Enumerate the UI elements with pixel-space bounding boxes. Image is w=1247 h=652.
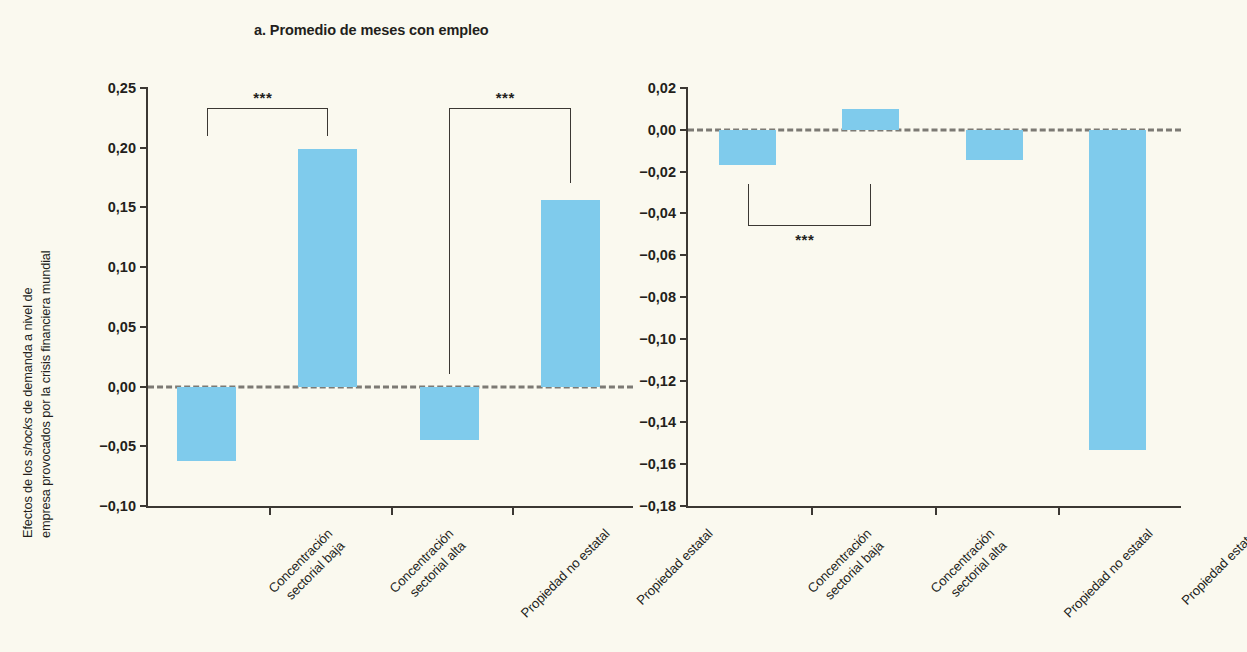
y-axis-tick-label: −0,05 (99, 438, 136, 454)
y-axis-tick-label: 0,15 (108, 199, 136, 215)
y-axis-tick (140, 266, 148, 268)
bar (842, 109, 899, 130)
x-axis-category-label-line: Propiedad no estatal (518, 526, 613, 621)
y-axis-tick-label: −0,12 (639, 373, 676, 389)
y-axis-tick (140, 87, 148, 89)
y-axis-tick-label: 0,00 (648, 122, 676, 138)
x-axis-category-label: Concentraciónsectorial alta (386, 526, 469, 609)
panel-a: a. Promedio de meses con empleo 0,250,20… (0, 0, 640, 652)
y-axis-tick-label: 0,25 (108, 80, 136, 96)
x-axis-tick (811, 506, 813, 515)
y-axis-tick-label: −0,18 (639, 498, 676, 514)
x-axis-category-label: Concentraciónsectorial baja (265, 526, 348, 609)
y-axis-tick (680, 505, 688, 507)
x-axis-tick (512, 506, 514, 515)
y-axis-tick-label: −0,16 (639, 456, 676, 472)
significance-stars: *** (496, 90, 515, 105)
x-axis-category-label: Propiedad no estatal (1061, 526, 1157, 622)
x-axis-category-label: Concentraciónsectorial baja (804, 526, 887, 609)
y-axis-tick (680, 338, 688, 340)
y-axis-tick-label: −0,10 (639, 331, 676, 347)
bar (1089, 130, 1146, 450)
y-axis-tick-label: −0,04 (639, 205, 676, 221)
x-axis-category-label-line: Propiedad estatal (1179, 526, 1247, 608)
bar (420, 387, 479, 441)
bar (177, 387, 236, 461)
bar (298, 149, 357, 387)
y-axis-tick (140, 147, 148, 149)
y-axis-tick-label: 0,02 (648, 80, 676, 96)
y-axis-tick (140, 326, 148, 328)
y-axis-tick (680, 296, 688, 298)
y-axis-tick-label: 0,10 (108, 259, 136, 275)
panel-a-plot-area: 0,250,200,150,100,050,00−0,05−0,10Concen… (146, 88, 633, 508)
y-axis-tick (140, 445, 148, 447)
significance-bracket (748, 184, 871, 226)
y-axis-tick-label: −0,10 (99, 498, 136, 514)
y-axis-tick (680, 129, 688, 131)
bar (719, 130, 776, 166)
x-axis-tick (391, 506, 393, 515)
y-axis-tick (680, 380, 688, 382)
y-axis-tick (140, 386, 148, 388)
x-axis-category-label: Concentraciónsectorial alta (927, 526, 1010, 609)
y-axis-tick (680, 212, 688, 214)
y-axis-tick (680, 87, 688, 89)
y-axis-tick (680, 171, 688, 173)
significance-bracket (449, 108, 570, 109)
y-axis-tick-label: −0,06 (639, 247, 676, 263)
x-axis-category-label: Propiedad no estatal (518, 526, 614, 622)
bar (541, 200, 600, 386)
y-axis-tick-label: −0,08 (639, 289, 676, 305)
panel-b-plot-area: 0,020,00−0,02−0,04−0,06−0,08−0,10−0,12−0… (686, 88, 1181, 508)
significance-bracket (207, 108, 328, 136)
y-axis-tick-label: −0,02 (639, 164, 676, 180)
x-axis-tick (935, 506, 937, 515)
y-axis-tick-label: 0,20 (108, 140, 136, 156)
y-axis-tick (680, 421, 688, 423)
x-axis-tick (269, 506, 271, 515)
y-axis-tick-label: 0,05 (108, 319, 136, 335)
y-axis-tick (680, 254, 688, 256)
y-axis-tick (680, 463, 688, 465)
figure-canvas: Efectos de los shocks de demanda a nivel… (0, 0, 1247, 652)
bar (966, 130, 1023, 160)
panel-a-title: a. Promedio de meses con empleo (254, 22, 489, 38)
y-axis-tick-label: 0,00 (108, 379, 136, 395)
y-axis-tick-label: −0,14 (639, 414, 676, 430)
significance-bracket-leg (570, 108, 571, 183)
significance-stars: *** (795, 232, 814, 247)
y-axis-tick (140, 505, 148, 507)
y-axis-tick (140, 206, 148, 208)
panel-b: b. Salario promedio real 0,020,00−0,02−0… (620, 0, 1247, 652)
x-axis-category-label: Propiedad estatal (1179, 526, 1247, 609)
x-axis-category-label-line: Propiedad no estatal (1061, 526, 1156, 621)
significance-bracket-leg (449, 108, 450, 374)
x-axis-tick (1058, 506, 1060, 515)
significance-stars: *** (253, 90, 272, 105)
